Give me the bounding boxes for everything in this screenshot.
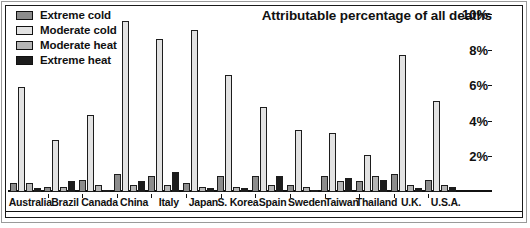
bar xyxy=(380,180,387,192)
bar xyxy=(233,187,240,192)
bar xyxy=(295,130,302,192)
bar xyxy=(183,183,190,192)
bar-group xyxy=(112,21,147,192)
y-axis-tick-mark xyxy=(488,156,492,157)
x-axis-divider-tick xyxy=(186,194,187,198)
x-axis-category-label: China xyxy=(120,196,148,208)
x-axis-divider-tick xyxy=(255,194,256,198)
bar xyxy=(87,115,94,192)
x-axis-bottom-rule xyxy=(6,211,522,212)
x-axis-divider-tick xyxy=(151,194,152,198)
y-axis-tick-label: 10% xyxy=(462,7,488,22)
y-axis-tick-mark xyxy=(488,50,492,51)
bar xyxy=(52,140,59,192)
bar-group xyxy=(43,140,78,192)
y-axis-tick-mark xyxy=(488,121,492,122)
x-axis-category-label: Japan xyxy=(189,196,218,208)
bar xyxy=(391,174,398,192)
bar xyxy=(79,180,86,192)
bar xyxy=(329,133,336,192)
bar xyxy=(164,185,171,192)
bar xyxy=(345,178,352,192)
bar xyxy=(356,181,363,192)
bar xyxy=(415,188,422,192)
bar xyxy=(252,176,259,192)
x-axis-category-label: Thailand xyxy=(356,196,398,208)
x-axis-category-label: U.S.A. xyxy=(431,196,461,208)
bar xyxy=(287,185,294,192)
bar xyxy=(148,176,155,192)
x-axis-divider-tick xyxy=(359,194,360,198)
bar xyxy=(303,187,310,192)
bar xyxy=(95,185,102,192)
y-axis-tick-label: 2% xyxy=(469,149,488,164)
x-axis-category-label: Italy xyxy=(159,196,179,208)
bar xyxy=(372,176,379,192)
y-axis-tick-label: 4% xyxy=(469,113,488,128)
x-axis-category-label: Brazil xyxy=(51,196,78,208)
bar xyxy=(191,30,198,192)
x-axis-divider-tick xyxy=(117,194,118,198)
bar xyxy=(60,187,67,192)
bar xyxy=(103,190,110,192)
bar xyxy=(449,187,456,192)
bar xyxy=(10,183,17,192)
x-axis-divider-tick xyxy=(221,194,222,198)
bar xyxy=(26,183,33,192)
bar xyxy=(433,101,440,192)
bar xyxy=(68,181,75,192)
bar-group xyxy=(354,155,389,192)
x-axis-category-label: Australia xyxy=(9,196,52,208)
bar-group xyxy=(216,75,251,192)
bar xyxy=(130,185,137,192)
y-axis-tick-mark xyxy=(488,14,492,15)
bar xyxy=(241,188,248,192)
bar-group xyxy=(8,87,43,192)
bar xyxy=(18,87,25,192)
bar xyxy=(407,185,414,192)
bar-group xyxy=(181,30,216,192)
bar-group xyxy=(389,55,424,192)
bar xyxy=(199,187,206,192)
bar-group xyxy=(250,107,285,192)
bar xyxy=(321,176,328,192)
bar-group xyxy=(320,133,355,192)
bar xyxy=(217,176,224,192)
x-axis-divider-tick xyxy=(290,194,291,198)
bar xyxy=(122,21,129,192)
x-axis-divider-tick xyxy=(394,194,395,198)
x-axis-category-label: Taiwan xyxy=(325,196,359,208)
x-axis-divider-tick xyxy=(82,194,83,198)
bar xyxy=(172,172,179,192)
bar xyxy=(311,190,318,192)
y-axis-tick-label: 8% xyxy=(469,42,488,57)
x-axis-category-label: Spain xyxy=(259,196,287,208)
bar xyxy=(364,155,371,192)
bar-group xyxy=(285,130,320,192)
bar xyxy=(399,55,406,192)
x-axis-divider-tick xyxy=(48,194,49,198)
bar xyxy=(34,188,41,192)
y-axis-tick-mark xyxy=(488,85,492,86)
bar xyxy=(268,185,275,192)
bar xyxy=(441,185,448,192)
bar-group xyxy=(77,115,112,192)
x-axis-divider-tick xyxy=(428,194,429,198)
bar-group xyxy=(146,39,181,192)
bar xyxy=(114,174,121,192)
bar xyxy=(260,107,267,192)
bar xyxy=(207,188,214,192)
bar xyxy=(156,39,163,192)
bar-group xyxy=(423,101,458,192)
bar xyxy=(44,187,51,192)
bar xyxy=(425,180,432,192)
plot-area: 10%8%6%4%2% xyxy=(8,14,492,192)
x-axis-category-label: Sweden xyxy=(288,196,326,208)
x-axis-labels: AustraliaBrazilCanadaChinaItalyJapanS. K… xyxy=(5,194,523,216)
y-axis-tick-label: 6% xyxy=(469,78,488,93)
x-axis-divider-tick xyxy=(325,194,326,198)
x-axis-category-label: S. Korea xyxy=(218,196,259,208)
bar xyxy=(276,176,283,192)
x-axis-category-label: Canada xyxy=(81,196,118,208)
bar xyxy=(337,181,344,192)
